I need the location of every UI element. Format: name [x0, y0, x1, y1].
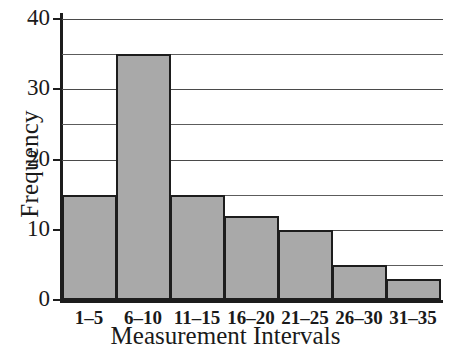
histogram-bar	[278, 230, 333, 300]
y-tick-mark	[53, 18, 61, 20]
y-tick-label: 0	[39, 286, 51, 312]
histogram-bar	[332, 265, 387, 300]
histogram-bar	[116, 54, 171, 300]
histogram-bar	[170, 195, 225, 300]
y-tick-mark	[53, 229, 61, 231]
gridline	[62, 19, 443, 20]
histogram-figure: Frequency 010203040 1–56–1011–1516–2021–…	[0, 0, 451, 358]
x-axis-title: Measurement Intervals	[0, 322, 451, 350]
y-tick-label: 20	[27, 146, 50, 172]
plot-area: 010203040 1–56–1011–1516–2021–2526–3031–…	[62, 19, 443, 300]
y-tick-label: 40	[27, 5, 50, 31]
histogram-bar	[386, 279, 441, 300]
histogram-bar	[62, 195, 117, 300]
histogram-bar	[224, 216, 279, 300]
y-tick-label: 10	[27, 216, 50, 242]
y-tick-mark	[53, 299, 61, 301]
y-tick-label: 30	[27, 76, 50, 102]
y-tick-mark	[53, 88, 61, 90]
x-axis-line	[60, 300, 443, 303]
y-tick-mark	[53, 159, 61, 161]
